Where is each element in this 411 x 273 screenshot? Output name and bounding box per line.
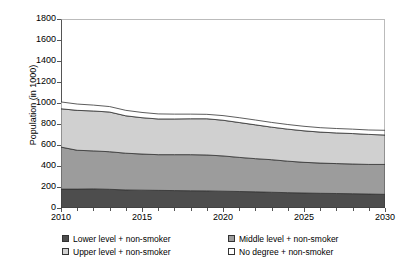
- legend-label: No degree + non-smoker: [239, 247, 333, 257]
- y-tick-label: 0: [4, 203, 56, 212]
- x-tick-mark: [93, 208, 94, 211]
- x-tick-label: 2025: [294, 212, 314, 222]
- legend-item[interactable]: No degree + non-smoker: [228, 247, 392, 257]
- x-tick-mark: [191, 208, 192, 211]
- x-tick-mark: [336, 208, 337, 211]
- y-tick-label: 1200: [4, 77, 56, 86]
- y-tick-label: 200: [4, 182, 56, 191]
- x-tick-mark: [320, 208, 321, 211]
- y-tick-label: 400: [4, 161, 56, 170]
- x-tick-mark: [288, 208, 289, 211]
- legend-label: Upper level + non-smoker: [73, 247, 171, 257]
- x-tick-mark: [239, 208, 240, 211]
- y-tick-label: 1400: [4, 56, 56, 65]
- stacked-area-chart: Population (in 1000) 0200400600800100012…: [0, 0, 411, 273]
- legend-swatch-icon: [228, 248, 235, 255]
- x-tick-mark: [369, 208, 370, 211]
- x-tick-mark: [207, 208, 208, 211]
- legend-swatch-icon: [62, 248, 69, 255]
- y-tick-label: 1600: [4, 35, 56, 44]
- x-tick-label: 2030: [375, 212, 395, 222]
- x-tick-label: 2015: [132, 212, 152, 222]
- plot-area: [61, 19, 385, 208]
- legend-label: Middle level + non-smoker: [239, 234, 338, 244]
- y-tick-label: 1000: [4, 98, 56, 107]
- legend-swatch-icon: [62, 235, 69, 242]
- y-tick-label: 1800: [4, 14, 56, 23]
- y-axis-ticks: 020040060080010001200140016001800: [0, 0, 56, 273]
- y-tick-label: 800: [4, 119, 56, 128]
- x-tick-label: 2010: [51, 212, 71, 222]
- x-tick-mark: [126, 208, 127, 211]
- legend-swatch-icon: [228, 235, 235, 242]
- x-tick-label: 2020: [213, 212, 233, 222]
- legend-label: Lower level + non-smoker: [73, 234, 171, 244]
- legend-item[interactable]: Lower level + non-smoker: [62, 234, 228, 244]
- x-tick-mark: [255, 208, 256, 211]
- x-tick-mark: [110, 208, 111, 211]
- x-tick-mark: [353, 208, 354, 211]
- legend-item[interactable]: Upper level + non-smoker: [62, 247, 228, 257]
- x-tick-mark: [272, 208, 273, 211]
- x-tick-mark: [174, 208, 175, 211]
- chart-legend: Lower level + non-smokerMiddle level + n…: [62, 232, 392, 258]
- x-tick-mark: [158, 208, 159, 211]
- x-tick-mark: [77, 208, 78, 211]
- y-tick-label: 600: [4, 140, 56, 149]
- legend-item[interactable]: Middle level + non-smoker: [228, 234, 392, 244]
